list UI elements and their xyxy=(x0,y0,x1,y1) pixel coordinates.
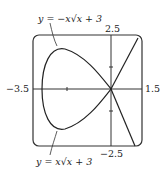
curve-neg xyxy=(42,49,111,89)
leader-bottom xyxy=(50,131,57,155)
x-max-label: 1.5 xyxy=(145,84,160,94)
y-min-label: −2.5 xyxy=(100,149,123,159)
viewing-window-frame xyxy=(33,35,142,146)
bottom-equation-label: y = x√x + 3 xyxy=(36,157,92,167)
y-max-label: 2.5 xyxy=(105,24,120,34)
curve-neg-right xyxy=(111,89,135,146)
curve-pos xyxy=(42,89,111,129)
x-min-label: −3.5 xyxy=(6,84,29,94)
top-equation-label: y = −x√x + 3 xyxy=(38,14,102,24)
curve-pos-right xyxy=(111,38,138,89)
